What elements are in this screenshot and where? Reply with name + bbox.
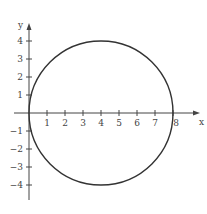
svg-text:2: 2 (17, 72, 23, 82)
svg-text:3: 3 (80, 118, 86, 128)
svg-text:4: 4 (98, 118, 104, 128)
svg-text:8: 8 (173, 118, 179, 128)
svg-text:−3: −3 (10, 162, 24, 172)
svg-text:4: 4 (17, 36, 23, 46)
svg-text:−1: −1 (10, 126, 23, 136)
x-axis-label: x (199, 117, 204, 127)
svg-text:1: 1 (17, 90, 23, 100)
x-tick-labels: 1 2 3 4 5 6 7 8 (44, 118, 179, 128)
circle-graph: x y 1 2 3 4 5 6 7 8 4 3 2 1 −1 −2 −3 −4 (0, 0, 207, 214)
svg-text:2: 2 (62, 118, 68, 128)
y-axis-arrow-icon (27, 23, 32, 30)
x-axis-arrow-icon (193, 111, 200, 116)
svg-text:5: 5 (116, 118, 122, 128)
svg-text:−2: −2 (10, 144, 23, 154)
svg-text:−4: −4 (10, 180, 24, 190)
svg-text:6: 6 (134, 118, 140, 128)
y-axis-label: y (17, 20, 24, 30)
svg-text:3: 3 (17, 54, 23, 64)
coordinate-plane: x y 1 2 3 4 5 6 7 8 4 3 2 1 −1 −2 −3 −4 (0, 0, 207, 214)
svg-text:1: 1 (44, 118, 50, 128)
svg-text:7: 7 (152, 118, 158, 128)
